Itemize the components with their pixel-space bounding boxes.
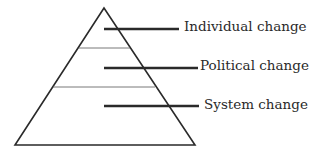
level-label-individual: Individual change (184, 20, 307, 34)
level-label-political: Political change (200, 59, 309, 73)
level-label-system: System change (204, 98, 308, 112)
